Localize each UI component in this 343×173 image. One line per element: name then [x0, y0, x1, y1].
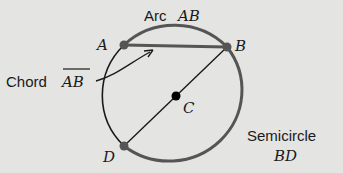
minor-arc-ad	[102, 45, 124, 146]
semicircle-label-name: BD	[273, 147, 297, 165]
point-d	[120, 142, 129, 151]
point-c-label: C	[183, 99, 195, 117]
chord-label-name: AB	[60, 73, 84, 91]
point-a-label: A	[95, 36, 108, 54]
point-a	[120, 41, 129, 50]
chord-label-word: Chord	[6, 73, 47, 90]
point-d-label: D	[102, 148, 115, 166]
semicircle-label-word: Semicircle	[247, 127, 316, 144]
circle-diagram: Arc AB A B C D Chord AB Semicircle BD	[0, 0, 343, 173]
point-b-label: B	[234, 37, 246, 55]
arc-label-name: AB	[176, 7, 200, 25]
arc-label-word: Arc	[144, 7, 167, 24]
arc-ab	[124, 25, 227, 47]
point-b	[223, 43, 232, 52]
chord-ab	[124, 45, 227, 47]
point-c	[172, 92, 181, 101]
